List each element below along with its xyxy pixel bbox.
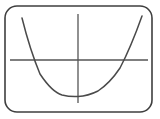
parabola-graph-figure: [0, 0, 160, 119]
graph-canvas: [0, 0, 160, 119]
